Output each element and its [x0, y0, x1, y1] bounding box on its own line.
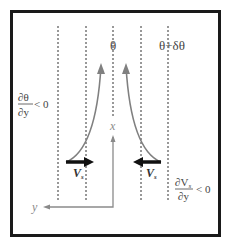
y-axis-arrowhead-icon [43, 205, 50, 210]
left-vs-arrowhead-icon [84, 157, 94, 167]
right-vs-arrowhead-icon [133, 157, 143, 167]
left-vs-sub: s [80, 173, 84, 181]
x-axis-arrowhead-icon [111, 135, 116, 142]
dtheta-numerator: ∂θ [18, 91, 29, 103]
dtheta-denominator: ∂y [18, 106, 29, 118]
x-axis-label: x [109, 119, 116, 133]
y-axis-label: y [31, 200, 38, 214]
left-flow-curve [66, 66, 101, 162]
dvs-dy-label: ∂Vs ∂y < 0 [175, 176, 211, 202]
dvs-num-main: ∂V [175, 176, 188, 188]
theta-label: θ [110, 38, 116, 53]
right-vs-sub: s [153, 173, 157, 181]
theta-plus-dtheta-label: θ+δθ [159, 38, 185, 53]
right-flow-arrowhead-icon [122, 63, 130, 74]
dvs-numerator: ∂Vs [175, 176, 191, 190]
right-flow-curve [126, 66, 161, 162]
isentrope-frontogenesis-diagram: θ θ+δθ ∂θ ∂y < 0 ∂Vs ∂y < 0 Vs Vs x y [0, 0, 227, 247]
left-vs-label: Vs [73, 166, 84, 181]
dtheta-dy-label: ∂θ ∂y < 0 [18, 91, 49, 118]
left-flow-arrowhead-icon [97, 63, 105, 74]
dtheta-relation: < 0 [34, 98, 49, 110]
dvs-relation: < 0 [196, 183, 211, 195]
right-vs-label: Vs [146, 166, 157, 181]
dvs-denominator: ∂y [178, 190, 189, 202]
